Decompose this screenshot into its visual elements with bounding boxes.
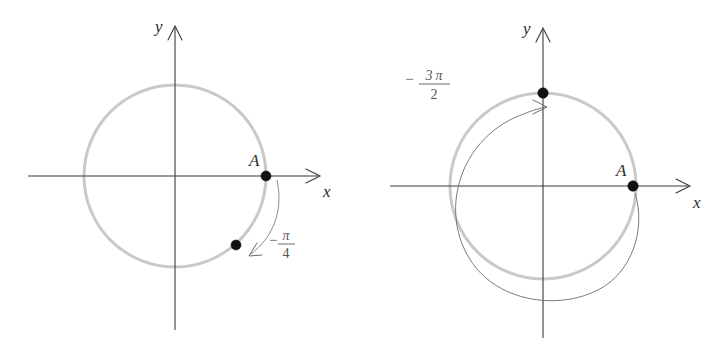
figure-root: x y A − π 4 x y bbox=[0, 0, 716, 347]
x-axis-label-left: x bbox=[322, 182, 331, 201]
angle-numerator-right: 3 π bbox=[425, 68, 444, 83]
sweep-arrowhead-left bbox=[249, 243, 262, 256]
point-a-dot-right bbox=[628, 181, 638, 191]
angle-label-left: − π 4 bbox=[269, 228, 295, 261]
terminal-point-dot-right bbox=[538, 88, 548, 98]
angle-minus-sign-right: − bbox=[405, 71, 413, 87]
sweep-arc-right bbox=[456, 107, 639, 301]
angle-denominator-right: 2 bbox=[431, 87, 438, 102]
x-axis-label-right: x bbox=[692, 193, 701, 212]
y-axis-label-right: y bbox=[521, 19, 531, 38]
point-a-label-right: A bbox=[615, 161, 627, 180]
point-a-dot-left bbox=[261, 171, 271, 181]
angle-denominator-left: 4 bbox=[283, 246, 290, 261]
terminal-point-dot-left bbox=[231, 240, 241, 250]
unit-circle-diagram-left: x y A − π 4 bbox=[0, 0, 358, 347]
angle-numerator-left: π bbox=[282, 228, 290, 243]
angle-label-right: − 3 π 2 bbox=[405, 68, 450, 102]
point-a-label-left: A bbox=[248, 151, 260, 170]
unit-circle-diagram-right: x y A − 3 π 2 bbox=[358, 0, 716, 347]
angle-minus-sign-left: − bbox=[269, 232, 277, 248]
y-axis-label-left: y bbox=[153, 17, 163, 36]
